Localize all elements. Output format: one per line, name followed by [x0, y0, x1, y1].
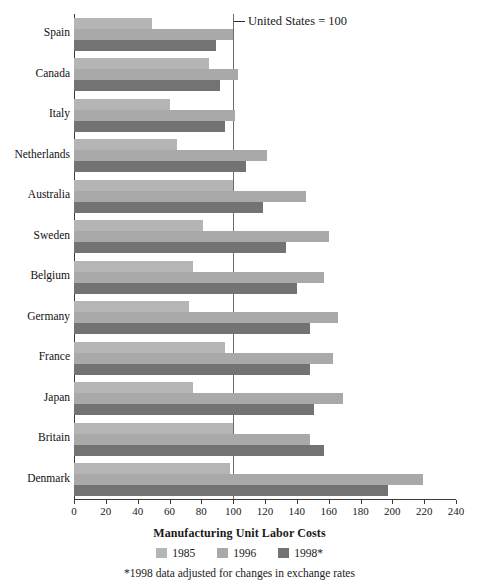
x-tick: [392, 500, 393, 504]
x-tick-label: 220: [416, 505, 433, 517]
x-axis-ticks: 020406080100120140160180200220240: [74, 500, 456, 526]
bar-germany-1996: [74, 312, 338, 323]
bar-group: [74, 217, 456, 258]
bar-sweden-1985: [74, 220, 203, 231]
x-tick: [170, 500, 171, 504]
x-tick: [297, 500, 298, 504]
legend-item-1998[interactable]: 1998*: [278, 547, 323, 559]
bar-belgium-1985: [74, 261, 193, 272]
x-tick: [201, 500, 202, 504]
x-tick-label: 240: [448, 505, 465, 517]
bar-japan-1985: [74, 382, 193, 393]
bar-britain-1985: [74, 423, 233, 434]
x-tick-label: 180: [352, 505, 369, 517]
category-label-italy: Italy: [0, 107, 70, 119]
category-label-japan: Japan: [0, 391, 70, 403]
x-tick-label: 80: [196, 505, 207, 517]
x-tick-label: 60: [164, 505, 175, 517]
category-label-france: France: [0, 350, 70, 362]
bar-belgium-1998: [74, 283, 297, 294]
category-label-canada: Canada: [0, 67, 70, 79]
category-label-denmark: Denmark: [0, 472, 70, 484]
bar-group: [74, 55, 456, 96]
bar-group: [74, 136, 456, 177]
bar-australia-1985: [74, 180, 233, 191]
category-label-spain: Spain: [0, 26, 70, 38]
bar-netherlands-1985: [74, 139, 177, 150]
bar-france-1996: [74, 353, 333, 364]
x-tick: [424, 500, 425, 504]
legend: 198519961998*: [0, 547, 479, 559]
x-tick: [74, 500, 75, 504]
bar-france-1985: [74, 342, 225, 353]
bar-germany-1985: [74, 301, 189, 312]
bar-group: [74, 95, 456, 136]
bar-britain-1996: [74, 434, 310, 445]
leader-dash-icon: [234, 21, 245, 22]
bar-germany-1998: [74, 323, 310, 334]
x-tick: [106, 500, 107, 504]
x-tick-label: 40: [132, 505, 143, 517]
legend-item-1985[interactable]: 1985: [156, 547, 195, 559]
x-tick-label: 120: [257, 505, 274, 517]
bar-netherlands-1998: [74, 161, 246, 172]
bar-spain-1985: [74, 18, 152, 29]
us-baseline-label: United States = 100: [248, 14, 347, 29]
bar-italy-1998: [74, 121, 225, 132]
category-label-britain: Britain: [0, 431, 70, 443]
x-tick: [233, 500, 234, 504]
bar-canada-1998: [74, 80, 220, 91]
category-label-australia: Australia: [0, 188, 70, 200]
bar-netherlands-1996: [74, 150, 267, 161]
bar-spain-1998: [74, 40, 216, 51]
x-axis-title: Manufacturing Unit Labor Costs: [0, 526, 479, 541]
bar-sweden-1998: [74, 242, 286, 253]
bar-canada-1996: [74, 69, 238, 80]
legend-label: 1996: [233, 547, 256, 559]
bar-group: [74, 338, 456, 379]
chart-footnote: *1998 data adjusted for changes in excha…: [0, 567, 479, 579]
bar-belgium-1996: [74, 272, 324, 283]
bar-japan-1998: [74, 404, 314, 415]
legend-item-1996[interactable]: 1996: [217, 547, 256, 559]
x-tick-label: 140: [289, 505, 306, 517]
x-tick-label: 160: [320, 505, 337, 517]
bar-france-1998: [74, 364, 310, 375]
legend-label: 1998*: [294, 547, 323, 559]
x-tick-label: 20: [100, 505, 111, 517]
legend-label: 1985: [172, 547, 195, 559]
bar-japan-1996: [74, 393, 343, 404]
us-baseline-annotation: United States = 100: [234, 14, 347, 29]
bar-denmark-1998: [74, 485, 388, 496]
category-label-belgium: Belgium: [0, 269, 70, 281]
x-tick-label: 100: [225, 505, 242, 517]
x-tick: [329, 500, 330, 504]
bar-italy-1985: [74, 99, 170, 110]
legend-swatch-icon: [217, 548, 228, 558]
x-tick: [138, 500, 139, 504]
x-tick-label: 0: [71, 505, 77, 517]
bar-italy-1996: [74, 110, 235, 121]
bar-group: [74, 257, 456, 298]
category-axis-labels: SpainCanadaItalyNetherlandsAustraliaSwed…: [0, 14, 70, 500]
category-label-germany: Germany: [0, 310, 70, 322]
category-label-sweden: Sweden: [0, 229, 70, 241]
plot-area: [74, 14, 456, 500]
x-tick: [456, 500, 457, 504]
legend-swatch-icon: [156, 548, 167, 558]
bar-australia-1996: [74, 191, 306, 202]
bar-sweden-1996: [74, 231, 329, 242]
x-tick-label: 200: [384, 505, 401, 517]
x-tick: [265, 500, 266, 504]
bar-australia-1998: [74, 202, 263, 213]
bar-denmark-1996: [74, 474, 423, 485]
bar-canada-1985: [74, 58, 209, 69]
bar-group: [74, 460, 456, 501]
bar-group: [74, 379, 456, 420]
x-tick: [361, 500, 362, 504]
bar-spain-1996: [74, 29, 233, 40]
bar-group: [74, 419, 456, 460]
bar-denmark-1985: [74, 463, 230, 474]
category-label-netherlands: Netherlands: [0, 148, 70, 160]
bar-group: [74, 176, 456, 217]
